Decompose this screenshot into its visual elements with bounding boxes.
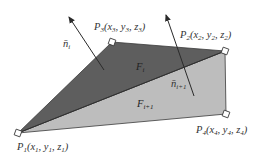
- vertex-label-p4: P4(x4, y4, z4): [195, 124, 248, 137]
- vertex-label-p2: P2(x2, y2, z2): [179, 29, 232, 42]
- normal-label-n-i: n̄i: [63, 38, 70, 51]
- vertex-label-p1: P1(x1, y1, z1): [16, 141, 69, 154]
- mesh-faces-diagram: Fi Fi+1 n̄i n̄i+1 P3(x3, y3, z3) P2(x2, …: [0, 0, 264, 162]
- vertex-label-p3: P3(x3, y3, z3): [93, 21, 146, 34]
